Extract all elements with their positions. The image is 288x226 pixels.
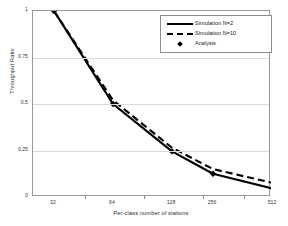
y-tick-label: 0.25 (4, 147, 28, 152)
x-tick-mark (244, 196, 245, 199)
legend-item-simulation-n2: Simulation N=2 (165, 19, 267, 29)
x-tick-label: 512 (268, 200, 277, 205)
solid-line-key (165, 19, 195, 29)
x-tick-label: 128 (167, 200, 176, 205)
x-axis-title: Per-class number of stations (32, 210, 270, 216)
x-tick-mark (144, 196, 145, 199)
legend-item-simulation-n10: Simulation N=10 (165, 29, 267, 39)
legend-item-analysis: Analysis (165, 39, 267, 49)
gridline-075 (33, 58, 269, 59)
dashed-line-key (165, 29, 195, 39)
legend-label: Simulation N=2 (195, 21, 233, 27)
y-tick-label: 0 (4, 193, 28, 198)
x-tick-label: 64 (109, 200, 115, 205)
gridline-050 (33, 104, 269, 105)
x-tick-label: 32 (50, 200, 56, 205)
y-tick-label: 1 (4, 7, 28, 12)
gridline-025 (33, 151, 269, 152)
x-tick-label: 256 (208, 200, 217, 205)
legend-label: Analysis (195, 41, 216, 47)
y-axis-title: Throughput Ratio (9, 21, 15, 121)
chart-legend: Simulation N=2 Simulation N=10 Analysis (160, 15, 272, 53)
y-tick-label: 0.5 (4, 100, 28, 105)
diamond-marker-key (165, 39, 195, 49)
chart-figure: 1 0.75 0.5 0.25 0 .ytick-lab{right:auto;… (0, 0, 288, 226)
y-tick-label: 0.75 (4, 54, 28, 59)
x-tick-mark (203, 196, 204, 199)
x-axis-tick-labels: 32 64 128 256 512 (32, 196, 270, 210)
legend-label: Simulation N=10 (195, 31, 236, 37)
x-tick-mark (85, 196, 86, 199)
